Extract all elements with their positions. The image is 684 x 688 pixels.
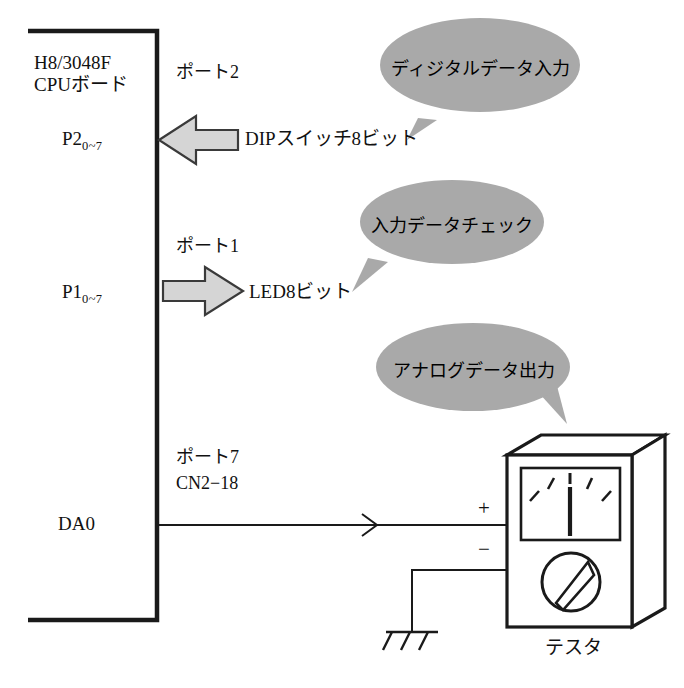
port1-pin-label: P10~7 (62, 281, 102, 307)
port7-connector-label: CN2−18 (176, 473, 238, 494)
tester-knob (542, 553, 600, 611)
block-diagram: H8/3048FCPUボード ポート2 P20~7 DIPスイッチ8ビット ポー… (0, 0, 684, 688)
port2-peripheral-label: DIPスイッチ8ビット (245, 128, 418, 150)
callout-input-check-text: 入力データチェック (362, 211, 542, 237)
ground-symbol (383, 632, 438, 650)
port1-output-arrow (163, 267, 243, 315)
terminal-minus-sign: − (478, 537, 490, 562)
tester-caption: テスタ (545, 637, 602, 659)
port2-pin-label: P20~7 (62, 128, 102, 154)
diagram-vector-layer (0, 0, 684, 688)
callout-analog-output-text: アナログデータ出力 (376, 356, 571, 382)
port2-input-arrow (159, 116, 238, 164)
port2-label: ポート2 (176, 62, 239, 83)
ground-return-wire (383, 570, 507, 650)
board-name: H8/3048FCPUボード (34, 52, 128, 97)
port1-label: ポート1 (176, 236, 239, 257)
port7-signal-line (159, 514, 507, 536)
port1-peripheral-label: LED8ビット (249, 281, 352, 303)
callout-digital-input-text: ディジタルデータ入力 (380, 54, 580, 80)
tester-device (507, 435, 665, 627)
port7-label: ポート7 (176, 447, 239, 468)
terminal-plus-sign: + (478, 496, 490, 521)
port7-pin-label: DA0 (58, 513, 95, 535)
